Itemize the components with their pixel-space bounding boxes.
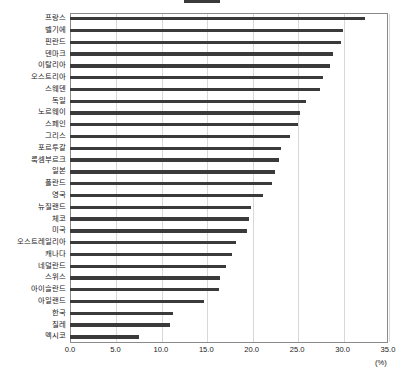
category-label: 노르웨이 — [0, 108, 66, 116]
category-label: 핀란드 — [0, 38, 66, 46]
bar — [70, 76, 323, 79]
bar — [70, 17, 365, 20]
bar-row — [70, 131, 388, 142]
category-label: 스위스 — [0, 273, 66, 281]
bar-row — [70, 143, 388, 154]
bar-row — [70, 319, 388, 330]
bar — [70, 288, 219, 291]
category-label: 그리스 — [0, 132, 66, 140]
legend-swatch-icon — [184, 0, 220, 3]
category-axis-labels: 프랑스벨기에핀란드덴마크이탈리아오스트리아스웨덴독일노르웨이스페인그리스포르투갈… — [0, 13, 66, 343]
bar-row — [70, 107, 388, 118]
x-tick-label: 0.0 — [65, 345, 76, 354]
category-label: 포르투갈 — [0, 144, 66, 152]
bar — [70, 265, 226, 268]
bar-row — [70, 331, 388, 342]
bar-row — [70, 72, 388, 83]
category-label: 폴란드 — [0, 179, 66, 187]
bar — [70, 312, 173, 315]
bar — [70, 206, 251, 209]
x-axis-unit-label: (%) — [375, 358, 387, 367]
bar — [70, 111, 300, 114]
category-label: 미국 — [0, 226, 66, 234]
x-tick-label: 5.0 — [110, 345, 121, 354]
x-tick-label: 25.0 — [290, 345, 305, 354]
gridline — [389, 14, 390, 342]
category-label: 칠레 — [0, 321, 66, 329]
category-label: 뉴질랜드 — [0, 203, 66, 211]
bar-row — [70, 25, 388, 36]
bar — [70, 182, 272, 185]
bar-row — [70, 261, 388, 272]
category-label: 체코 — [0, 215, 66, 223]
bar — [70, 217, 249, 220]
bar-row — [70, 13, 388, 24]
bar-row — [70, 237, 388, 248]
category-label: 캐나다 — [0, 250, 66, 258]
bar-row — [70, 284, 388, 295]
bar — [70, 123, 298, 126]
category-label: 영국 — [0, 191, 66, 199]
category-label: 이탈리아 — [0, 61, 66, 69]
chart-legend — [0, 0, 410, 7]
bar — [70, 229, 247, 232]
category-label: 아이슬란드 — [0, 285, 66, 293]
category-label: 오스트리아 — [0, 73, 66, 81]
x-tick-label: 20.0 — [244, 345, 259, 354]
bar-row — [70, 308, 388, 319]
bar — [70, 170, 275, 173]
bar-chart-figure: 프랑스벨기에핀란드덴마크이탈리아오스트리아스웨덴독일노르웨이스페인그리스포르투갈… — [0, 0, 410, 382]
category-label: 멕시코 — [0, 332, 66, 340]
bar-row — [70, 190, 388, 201]
category-label: 독일 — [0, 97, 66, 105]
bar — [70, 276, 220, 279]
bar-row — [70, 202, 388, 213]
category-label: 스페인 — [0, 120, 66, 128]
bar — [70, 335, 139, 338]
bar-row — [70, 213, 388, 224]
category-label: 네덜란드 — [0, 262, 66, 270]
bar-row — [70, 48, 388, 59]
bar — [70, 158, 279, 161]
bar — [70, 100, 306, 103]
x-tick-label: 30.0 — [335, 345, 350, 354]
category-label: 일본 — [0, 167, 66, 175]
bar-row — [70, 272, 388, 283]
category-label: 프랑스 — [0, 14, 66, 22]
bar — [70, 253, 232, 256]
bars-container — [70, 13, 388, 343]
bar — [70, 64, 330, 67]
x-tick-label: 15.0 — [199, 345, 214, 354]
bar-row — [70, 60, 388, 71]
category-label: 아일랜드 — [0, 297, 66, 305]
category-label: 룩셈부르크 — [0, 156, 66, 164]
bar-row — [70, 225, 388, 236]
bar — [70, 88, 320, 91]
bar — [70, 147, 281, 150]
bar-row — [70, 178, 388, 189]
bar-row — [70, 119, 388, 130]
bar-row — [70, 166, 388, 177]
category-label: 스웨덴 — [0, 85, 66, 93]
bar — [70, 241, 236, 244]
x-axis-tick-labels: 0.05.010.015.020.025.030.035.0 — [0, 345, 410, 357]
bar-row — [70, 84, 388, 95]
bar — [70, 323, 170, 326]
bar-row — [70, 154, 388, 165]
category-label: 오스트레일리아 — [0, 238, 66, 246]
x-tick-label: 10.0 — [153, 345, 168, 354]
bar — [70, 135, 290, 138]
category-label: 벨기에 — [0, 26, 66, 34]
bar-row — [70, 249, 388, 260]
bar — [70, 194, 263, 197]
category-label: 덴마크 — [0, 50, 66, 58]
bar — [70, 41, 341, 44]
bar — [70, 52, 333, 55]
category-label: 한국 — [0, 309, 66, 317]
bar-row — [70, 296, 388, 307]
bar-row — [70, 96, 388, 107]
bar-row — [70, 37, 388, 48]
bar — [70, 300, 204, 303]
x-tick-label: 35.0 — [381, 345, 396, 354]
bar — [70, 29, 343, 32]
